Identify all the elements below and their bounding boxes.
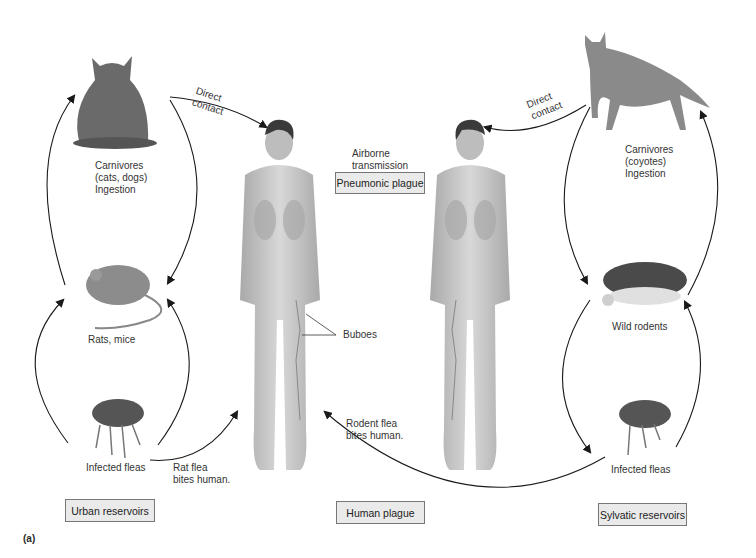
hedgehog-illustration [602,262,687,306]
box-pneumonic-plague: Pneumonic plague [335,172,425,194]
box-human-plague: Human plague [336,501,425,524]
label-infected-fleas-left: Infected fleas [86,462,145,474]
figure-label: (a) [23,533,35,544]
label-coyote: Carnivores (coyotes) Ingestion [625,144,673,180]
buboes-pointer-lines [302,314,336,335]
flea-left-illustration [92,399,144,458]
box-urban-reservoirs: Urban reservoirs [65,499,155,522]
urban-cycle-arrows [35,96,266,460]
human-figure-left [240,120,320,470]
human-figure-right [430,120,510,470]
label-buboes: Buboes [343,329,377,341]
label-rat-flea-bites: Rat flea bites human. [173,462,230,486]
cat-illustration [73,56,157,149]
label-wild-rodents: Wild rodents [612,321,668,333]
label-cat: Carnivores (cats, dogs) Ingestion [95,160,147,196]
label-airborne-transmission: Airborne transmission [352,148,408,172]
label-rats: Rats, mice [88,334,135,346]
label-rodent-flea-bites: Rodent flea bites human. [346,418,403,442]
coyote-illustration [585,32,710,130]
rat-illustration [86,265,161,328]
flea-right-illustration [619,400,671,455]
box-sylvatic-reservoirs: Sylvatic reservoirs [598,503,687,526]
label-infected-fleas-right: Infected fleas [611,464,670,476]
